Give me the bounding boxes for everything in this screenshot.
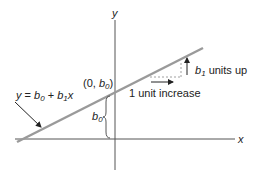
run-label: 1 unit increase [129,87,201,99]
slope-label: b1 units up [195,64,247,78]
intercept-brace-icon [103,96,110,138]
x-axis-label: x [237,133,244,145]
intercept-brace-label: b0 [92,110,103,124]
equation-label: y = b0 + b1x [15,89,74,103]
regression-diagram: y x y = b0 + b1x (0, b0) b0 b1 units up … [0,0,259,178]
equation-pointer-arrow-icon [15,102,41,127]
intercept-point-label: (0, b0) [83,77,113,91]
y-axis-label: y [111,7,119,19]
